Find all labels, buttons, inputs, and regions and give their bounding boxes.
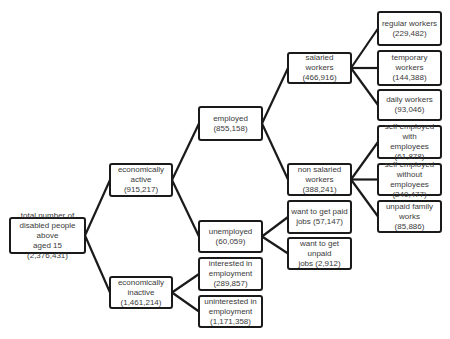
node-interested-in-employment: interested inemployment(289,857) (198, 257, 263, 291)
node-label-line: want to get unpaid (291, 239, 348, 259)
edge-salaried-regular (351, 29, 378, 69)
node-label-line: self employed with (381, 122, 438, 142)
edge-econ_inactive-uninterested (172, 293, 199, 312)
node-label-line: unemployed (209, 227, 253, 237)
edge-employed-salaried (262, 68, 288, 124)
node-label-line: economically (118, 278, 164, 288)
node-label-line: disabled people above (13, 221, 82, 241)
node-uninterested-in-employment: uninterested inemployment(1,171,358) (198, 295, 263, 328)
node-temporary-workers: temporary workers(144,388) (377, 50, 442, 86)
node-label-line: temporary workers (381, 53, 438, 73)
node-salaried-workers: salaried workers(466,916) (287, 52, 352, 84)
node-label-line: (60,059) (216, 237, 246, 247)
node-regular-workers: regular workers(229,482) (377, 11, 442, 46)
node-economically-inactive: economicallyinactive (1,461,214) (109, 276, 173, 309)
node-label-line: want to get paid (291, 207, 347, 217)
node-label-line: (85,886) (395, 222, 425, 232)
node-employed: employed(855,158) (198, 106, 263, 141)
node-label-line: regular workers (382, 19, 437, 29)
edge-unemployed-want_paid (262, 217, 288, 237)
node-label-line: jobs (2,912) (298, 259, 340, 269)
edge-salaried-daily (351, 68, 378, 105)
node-label-line: (1,171,358) (210, 317, 251, 327)
edge-total-econ_active (85, 180, 110, 236)
node-unpaid-family-works: unpaid family works(85,886) (377, 200, 442, 233)
node-label-line: uninterested in (204, 297, 256, 307)
node-label-line: (93,046) (395, 105, 425, 115)
node-label-line: unpaid family works (381, 202, 438, 222)
node-non-salaried-workers: non salariedworkers (388,241) (287, 163, 352, 196)
node-want-unpaid-jobs: want to get unpaidjobs (2,912) (287, 237, 352, 270)
edge-total-econ_inactive (85, 236, 110, 293)
edge-econ_inactive-interested (172, 274, 199, 293)
node-label-line: (855,158) (213, 124, 247, 134)
node-label-line: jobs (57,147) (296, 217, 343, 227)
node-label-line: without employees (381, 170, 438, 190)
edge-unemployed-want_unpaid (262, 237, 288, 254)
node-label-line: (289,857) (213, 279, 247, 289)
node-self-employed-without-employees: self employedwithout employees(240,477) (377, 163, 442, 196)
node-label-line: inactive (1,461,214) (113, 288, 169, 308)
edge-econ_active-employed (172, 124, 199, 181)
edge-non_salaried-self_with (351, 142, 378, 180)
node-unemployed: unemployed(60,059) (198, 220, 263, 253)
node-economically-active: economically active(915,217) (109, 163, 173, 197)
node-label-line: (144,388) (392, 73, 426, 83)
node-label-line: (915,217) (124, 185, 158, 195)
node-label-line: workers (388,241) (291, 175, 348, 195)
node-label-line: economically active (113, 165, 169, 185)
edge-econ_active-unemployed (172, 180, 199, 237)
node-label-line: (466,916) (302, 73, 336, 83)
node-label-line: interested in (209, 259, 253, 269)
node-want-paid-jobs: want to get paidjobs (57,147) (287, 200, 352, 234)
edge-employed-non_salaried (262, 124, 288, 180)
edge-non_salaried-unpaid_family (351, 180, 378, 217)
node-label-line: (240,477) (392, 190, 426, 200)
node-label-line: employment (209, 269, 253, 279)
node-label-line: (229,482) (392, 29, 426, 39)
node-daily-workers: daily workers(93,046) (377, 89, 442, 121)
node-label-line: daily workers (386, 95, 433, 105)
node-self-employed-with-employees: self employed withemployees (61,878) (377, 125, 442, 159)
node-label-line: salaried workers (291, 53, 348, 73)
node-label-line: non salaried (298, 165, 342, 175)
node-label-line: aged 15 (2,376,431) (13, 241, 82, 261)
node-label-line: employment (209, 307, 253, 317)
node-label-line: employed (213, 114, 248, 124)
node-label-line: self employed (385, 160, 434, 170)
node-label-line: total number of (21, 211, 74, 221)
node-total: total number ofdisabled people aboveaged… (9, 217, 86, 254)
